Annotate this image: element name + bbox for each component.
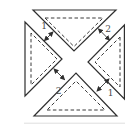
right-dashed-triangle — [95, 37, 120, 87]
top-left-gap-label: 1 — [41, 21, 47, 31]
bottom-left-gap-arrow-icon — [54, 69, 65, 80]
geometry-figure: 1 2 2 1 — [0, 0, 125, 124]
top-left-gap-arrow-icon — [45, 32, 54, 41]
triangle-diagram: 1 2 2 1 — [0, 0, 125, 124]
bottom-left-gap-label: 2 — [56, 86, 62, 96]
top-right-gap-label: 2 — [105, 24, 111, 34]
bottom-right-gap-label: 1 — [108, 88, 114, 98]
top-triangle — [33, 10, 116, 51]
top-dashed-triangle — [45, 18, 103, 47]
